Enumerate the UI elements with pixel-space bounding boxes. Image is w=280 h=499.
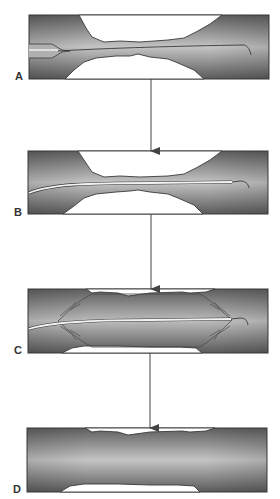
panel-d [27,428,267,492]
panel-a [29,15,269,79]
panel-b [28,151,268,214]
residual-plaque-bottom [60,484,200,492]
panel-label-b: B [14,206,22,218]
panel-c [28,289,268,353]
panel-label-c: C [14,344,22,356]
angioplasty-diagram: A B C D [0,0,280,499]
diagram-canvas [0,0,280,499]
panel-label-a: A [15,70,23,82]
panel-label-d: D [13,483,21,495]
